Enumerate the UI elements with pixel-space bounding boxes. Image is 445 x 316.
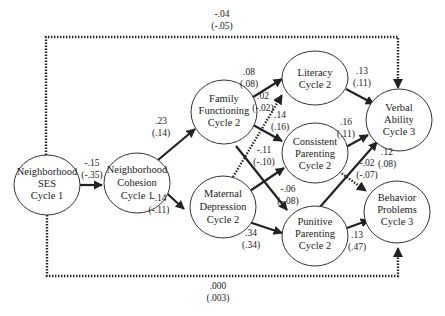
node-label: Maternal xyxy=(204,188,242,199)
node-label: Consistent xyxy=(293,136,337,147)
coef-family-literacy: .08 (.08) xyxy=(240,67,258,90)
coef-consistent-verbal: .16 (.11) xyxy=(337,117,355,140)
node-label: Cycle 2 xyxy=(299,160,331,171)
coef-value: .08 xyxy=(243,67,255,77)
coef-value: (-.10) xyxy=(253,157,274,168)
coef-value: .13 xyxy=(356,66,368,76)
node-label: Ability xyxy=(384,114,415,125)
node-family-functioning: Family Functioning Cycle 2 xyxy=(191,80,257,144)
coef-value: (-.05) xyxy=(211,21,232,32)
coef-value: .13 xyxy=(351,230,363,240)
node-label: Parenting xyxy=(295,148,336,159)
coef-value: (.34) xyxy=(242,240,260,251)
coef-consistent-behavior: -.02 (-.07) xyxy=(356,158,377,181)
node-label: Cycle 2 xyxy=(207,214,239,225)
path-diagram: Neighborhood SES Cycle 1 Neighborhood Co… xyxy=(0,0,445,316)
node-label: Family xyxy=(209,93,240,104)
node-label: Functioning xyxy=(199,105,251,116)
coef-value: (-.35) xyxy=(81,170,102,181)
node-neighborhood-ses: Neighborhood SES Cycle 1 xyxy=(14,155,80,215)
coef-value: (-.02) xyxy=(252,103,273,114)
coef-value: (.11) xyxy=(337,129,355,140)
coef-cohesion-family: .23 (.14) xyxy=(152,116,170,139)
coef-value: -.04 xyxy=(214,9,229,19)
coef-value: .23 xyxy=(155,116,167,126)
coef-value: (.003) xyxy=(207,293,230,304)
node-label: Behavior xyxy=(378,192,417,203)
coef-value: -.02 xyxy=(359,158,374,168)
node-behavior-problems: Behavior Problems Cycle 3 xyxy=(364,181,430,243)
node-label: Neighborhood xyxy=(107,164,168,175)
coef-maternal-punitive: .34 (.34) xyxy=(242,228,260,251)
coef-value: (-.11) xyxy=(148,205,169,216)
node-label: Literacy xyxy=(298,67,334,78)
coef-value: .12 xyxy=(381,147,393,157)
node-label: Problems xyxy=(377,204,417,215)
coef-value: -.14 xyxy=(151,193,166,203)
node-label: Cycle 2 xyxy=(299,79,331,90)
coef-maternal-literacy: .14 (.16) xyxy=(271,110,289,133)
coef-value: .02 xyxy=(257,91,269,101)
coef-value: (.14) xyxy=(152,128,170,139)
coef-ses-cohesion: -.15 (-.35) xyxy=(81,158,102,181)
edge-literacy-verbal xyxy=(346,89,374,104)
node-literacy: Literacy Cycle 2 xyxy=(282,51,348,105)
node-label: SES xyxy=(38,178,56,189)
node-punitive-parenting: Punitive Parenting Cycle 2 xyxy=(282,206,348,266)
node-label: Cycle 1 xyxy=(121,190,153,201)
node-label: Cycle 3 xyxy=(381,216,413,227)
coef-value: -.15 xyxy=(84,158,99,168)
coef-value: .34 xyxy=(245,228,257,238)
coef-value: (.08) xyxy=(378,159,396,170)
node-label: Cycle 2 xyxy=(208,117,240,128)
coef-value: (.08) xyxy=(240,79,258,90)
node-verbal-ability: Verbal Ability Cycle 3 xyxy=(366,89,432,151)
node-label: Depression xyxy=(199,201,247,212)
coef-punitive-behavior: .13 (.47) xyxy=(348,230,366,253)
coef-ses-verbal: -.04 (-.05) xyxy=(211,9,232,32)
node-label: Cycle 2 xyxy=(299,240,331,251)
coef-literacy-verbal: .13 (.11) xyxy=(353,66,371,89)
node-label: Parenting xyxy=(295,228,336,239)
coef-value: (.16) xyxy=(271,122,289,133)
coef-value: .14 xyxy=(274,110,286,120)
coef-value: -.06 xyxy=(280,184,295,194)
node-label: Punitive xyxy=(297,216,332,227)
node-label: Verbal xyxy=(385,102,412,113)
coef-value: .16 xyxy=(340,117,352,127)
node-label: Cycle 1 xyxy=(31,190,63,201)
coef-value: -.11 xyxy=(257,145,272,155)
node-label: Cycle 3 xyxy=(383,126,415,137)
coef-cohesion-maternal: -.14 (-.11) xyxy=(148,193,169,216)
node-label: Cohesion xyxy=(117,177,157,188)
coef-ses-behavior: .000 (.003) xyxy=(207,281,230,304)
coef-value: (-.08) xyxy=(277,196,298,207)
coef-value: (.11) xyxy=(353,78,371,89)
coef-value: (.47) xyxy=(348,242,366,253)
node-label: Neighborhood xyxy=(17,166,78,177)
coef-maternal-consistent: -.06 (-.08) xyxy=(277,184,298,207)
coef-value: .000 xyxy=(210,281,227,291)
coef-value: (-.07) xyxy=(356,170,377,181)
node-neighborhood-cohesion: Neighborhood Cohesion Cycle 1 xyxy=(104,153,170,213)
coef-family-punitive: -.11 (-.10) xyxy=(253,145,274,168)
